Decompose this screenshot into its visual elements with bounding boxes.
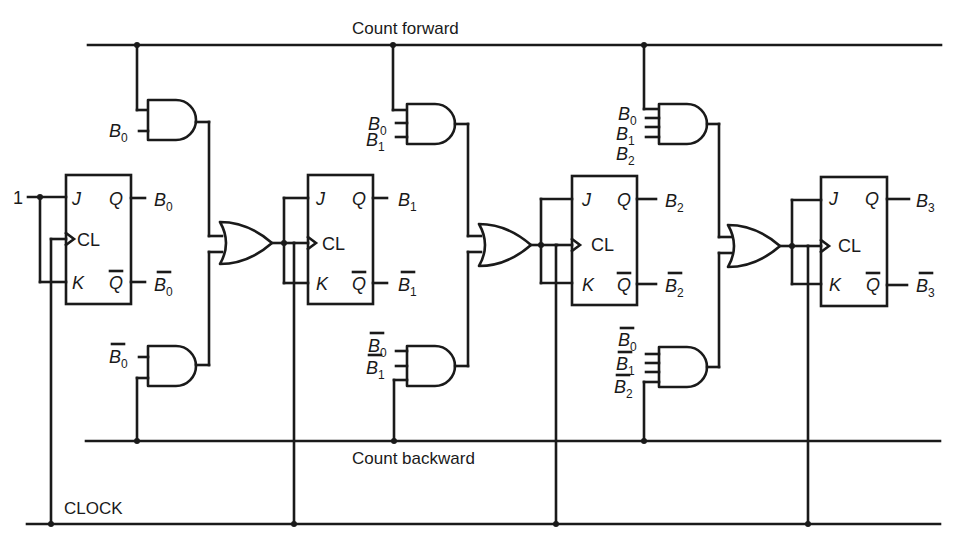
and-gate-forward-0 <box>134 42 222 236</box>
ff0-j-label: J <box>71 189 82 209</box>
ff3-cl-label: CL <box>838 236 861 256</box>
ff3-qbar-label: Q <box>866 275 880 295</box>
ff0-qbar-label: Q <box>109 273 123 293</box>
ff2-cl-label: CL <box>591 235 614 255</box>
and-b2-input-b0bar: B0 <box>618 330 637 354</box>
ff1-q-label: Q <box>352 189 366 209</box>
flipflop-3 <box>792 177 909 527</box>
and-b0-input-b0bar: B0 <box>109 347 128 371</box>
counter-circuit-diagram: Count forward Count backward CLOCK 1 J C… <box>0 0 957 550</box>
ff2-output-b2bar: B2 <box>665 276 684 300</box>
and-f0-input-b0: B0 <box>109 121 128 145</box>
ff1-output-b1bar: B1 <box>398 275 417 299</box>
and-b1-input-b0bar: B0 <box>368 336 387 360</box>
and-b1-input-b1bar: B1 <box>366 358 385 382</box>
ff2-qbar-label: Q <box>617 275 631 295</box>
ff1-output-b1: B1 <box>398 190 417 214</box>
ff0-output-b0: B0 <box>154 190 173 214</box>
clock-label: CLOCK <box>64 499 123 518</box>
constant-one-label: 1 <box>13 188 23 208</box>
ff2-output-b2: B2 <box>665 191 684 215</box>
or-gate-2 <box>728 225 808 267</box>
ff2-q-label: Q <box>617 190 631 210</box>
and-gate-backward-0 <box>134 252 222 444</box>
ff1-k-label: K <box>316 274 329 294</box>
ff3-k-label: K <box>829 275 842 295</box>
ff1-cl-label: CL <box>322 234 345 254</box>
ff0-cl-label: CL <box>77 230 100 250</box>
junction-dot <box>37 194 43 200</box>
and-b2-input-b2bar: B2 <box>614 377 633 401</box>
and-gate-forward-2 <box>641 42 731 237</box>
ff3-j-label: J <box>828 189 839 209</box>
flipflop-2 <box>541 176 656 527</box>
ff1-qbar-label: Q <box>352 274 366 294</box>
ff1-j-label: J <box>315 189 326 209</box>
ff3-output-b3bar: B3 <box>916 276 935 300</box>
ff3-q-label: Q <box>865 189 879 209</box>
and-gate-backward-2 <box>641 253 731 444</box>
ff0-q-label: Q <box>109 189 123 209</box>
ff3-output-b3: B3 <box>916 191 935 215</box>
count-forward-label: Count forward <box>352 19 459 38</box>
ff0-k-label: K <box>72 273 85 293</box>
or-gate-1 <box>479 224 557 266</box>
ff2-j-label: J <box>581 190 592 210</box>
count-backward-label: Count backward <box>352 449 475 468</box>
ff0-output-b0bar: B0 <box>154 275 173 299</box>
ff2-k-label: K <box>582 275 595 295</box>
flipflop-0 <box>28 175 145 527</box>
